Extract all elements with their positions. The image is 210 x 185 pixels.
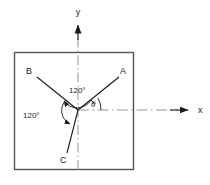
x-axis-label: x [198, 105, 203, 115]
vector-b-label: B [26, 66, 32, 76]
angle-arc-theta: θ [91, 98, 101, 110]
vector-diagram-figure: y x A B C θ [0, 0, 210, 185]
vector-a-label: A [120, 66, 126, 76]
theta-arc-path [98, 98, 101, 110]
x-axis: x [78, 105, 203, 115]
y-axis-label: y [76, 7, 81, 17]
angle-ab-label: 120° [69, 86, 86, 95]
angle-arc-ab: 120° [64, 86, 94, 108]
vector-c-label: C [60, 155, 67, 165]
angle-arc-bc: 120° [23, 100, 70, 124]
vector-c: C [60, 110, 78, 165]
figure-canvas: y x A B C θ [0, 0, 210, 185]
angle-bc-label: 120° [23, 111, 40, 120]
vector-c-line [67, 110, 78, 153]
arc-ab-path [64, 100, 91, 108]
